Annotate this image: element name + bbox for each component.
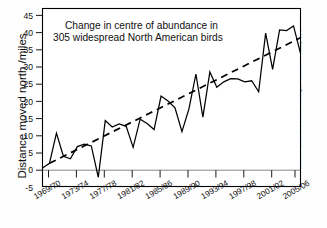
y-tick-label: -5 bbox=[25, 183, 33, 193]
chart-svg: 45 40 35 30 25 20 15 10 5 0 -5 1969/ bbox=[0, 0, 327, 228]
y-tick-label: 35 bbox=[23, 45, 33, 55]
y-tick-marks bbox=[36, 15, 43, 170]
y-tick-label: 40 bbox=[23, 28, 33, 38]
y-tick-label: 5 bbox=[28, 148, 33, 158]
y-tick-label: 25 bbox=[23, 79, 33, 89]
chart-title-line-1: Change in centre of abundance in bbox=[65, 20, 218, 31]
y-tick-label: 10 bbox=[23, 131, 33, 141]
y-tick-label: 30 bbox=[23, 62, 33, 72]
chart-figure: Distance moved north /miles Source: Bird… bbox=[0, 0, 327, 228]
chart-title-line-2: 305 widespread North American birds bbox=[53, 32, 223, 43]
y-tick-label: 20 bbox=[23, 97, 33, 107]
y-tick-labels: 45 40 35 30 25 20 15 10 5 0 -5 bbox=[23, 11, 33, 193]
y-tick-label: 0 bbox=[28, 165, 33, 175]
y-tick-label: 15 bbox=[23, 114, 33, 124]
y-tick-label: 45 bbox=[23, 11, 33, 21]
